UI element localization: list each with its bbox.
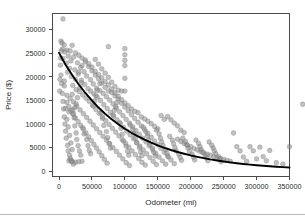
scatter-point <box>58 77 63 82</box>
scatter-point <box>134 141 139 146</box>
scatter-point <box>109 87 114 92</box>
scatter-point <box>104 129 109 134</box>
scatter-point <box>111 113 116 118</box>
scatter-point <box>238 149 243 154</box>
scatter-point <box>62 115 67 120</box>
scatter-point <box>274 160 279 165</box>
scatter-point <box>88 77 93 82</box>
y-tick-label: 25000 <box>26 49 46 58</box>
y-tick-label: 10000 <box>26 120 46 129</box>
x-tick-label: 300000 <box>245 182 269 191</box>
scatter-point <box>93 57 98 62</box>
scatter-point <box>107 141 112 146</box>
scatter-point <box>65 143 70 148</box>
scatter-point <box>122 52 127 57</box>
scatter-point <box>75 60 80 65</box>
scatter-point <box>78 153 83 158</box>
scatter-point <box>95 88 100 93</box>
y-tick-label: 5000 <box>30 143 46 152</box>
scatter-point <box>101 123 106 128</box>
scatter-point <box>74 137 79 142</box>
scatter-point <box>179 158 184 163</box>
scatter-point <box>105 135 110 140</box>
scatter-point <box>281 162 286 167</box>
scatter-point <box>82 69 87 74</box>
scatter-point <box>76 143 81 148</box>
scatter-point <box>84 74 89 79</box>
scatter-point <box>234 144 239 149</box>
scatter-point <box>80 63 85 68</box>
scatter-point <box>103 71 108 76</box>
y-axis-ticks: 050001000015000200002500030000 <box>26 25 53 175</box>
scatter-point <box>63 129 68 134</box>
scatter-point <box>121 139 126 144</box>
scatter-point <box>91 82 96 87</box>
scatter-point <box>122 89 127 94</box>
scatter-point <box>97 81 102 86</box>
scatter-point <box>96 62 101 67</box>
x-tick-label: 100000 <box>113 182 137 191</box>
scatter-point <box>248 144 253 149</box>
scatter-point <box>254 157 259 162</box>
footer-divider <box>0 214 305 215</box>
scatter-point <box>84 137 89 142</box>
scatter-point <box>74 131 79 136</box>
x-tick-label: 150000 <box>146 182 170 191</box>
y-axis-title: Price ($) <box>4 80 13 111</box>
scatter-point <box>122 76 127 81</box>
scatter-point <box>300 102 305 107</box>
scatter-point <box>57 89 62 94</box>
scatter-point <box>124 144 129 149</box>
scatter-point <box>64 136 69 141</box>
x-tick-label: 0 <box>57 182 61 191</box>
scatter-point <box>154 162 159 167</box>
scatter-point <box>287 144 292 149</box>
y-tick-label: 15000 <box>26 96 46 105</box>
scatter-point <box>267 148 272 153</box>
scatter-point <box>141 125 146 130</box>
scatter-point <box>115 100 120 105</box>
scatter-point <box>61 107 66 112</box>
scatter-point <box>105 161 110 166</box>
scatter-point <box>99 67 104 72</box>
scatter-point <box>192 157 197 162</box>
scatter-point <box>140 153 145 158</box>
scatter-point <box>231 131 236 136</box>
scatter-point <box>182 130 187 135</box>
scatter-point <box>257 145 262 150</box>
scatter-point <box>70 92 75 97</box>
scatter-point <box>58 63 63 68</box>
scatter-point <box>127 163 132 168</box>
scatter-point <box>68 59 73 64</box>
scatter-point <box>122 63 127 68</box>
scatter-plot-svg: 0500001000001500002000002500003000003500… <box>0 0 305 218</box>
scatter-point <box>75 95 80 100</box>
scatter-point <box>93 69 98 74</box>
scatter-point <box>70 83 75 88</box>
scatter-point <box>93 93 98 98</box>
scatter-point <box>159 113 164 118</box>
x-tick-label: 200000 <box>179 182 203 191</box>
scatter-point <box>143 163 148 168</box>
chart-figure: 0500001000001500002000002500003000003500… <box>0 0 305 218</box>
scatter-point <box>163 162 168 167</box>
scatter-point <box>264 158 269 163</box>
scatter-point <box>70 108 75 113</box>
scatter-point <box>88 151 93 156</box>
scatter-point <box>251 149 256 154</box>
scatter-point <box>98 98 103 103</box>
scatter-point <box>122 58 127 63</box>
y-tick-label: 30000 <box>26 25 46 34</box>
y-tick-label: 20000 <box>26 73 46 82</box>
scatter-point <box>122 46 127 51</box>
scatter-point <box>63 122 68 127</box>
scatter-point <box>72 124 77 129</box>
scatter-point <box>80 125 85 130</box>
scatter-point <box>106 44 111 49</box>
scatter-point <box>82 132 87 137</box>
scatter-point <box>120 132 125 137</box>
scatter-point <box>100 116 105 121</box>
scatter-point <box>108 146 113 151</box>
scatter-point <box>83 58 88 63</box>
x-tick-label: 50000 <box>82 182 102 191</box>
